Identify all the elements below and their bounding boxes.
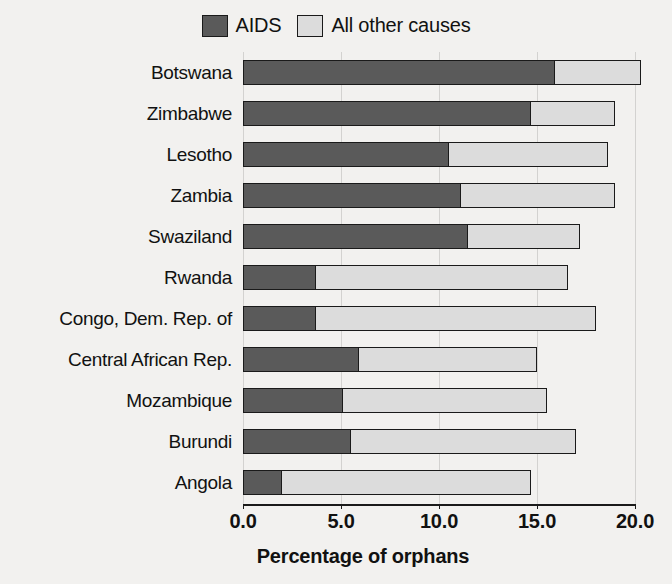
stacked-bar[interactable] <box>243 347 537 372</box>
category-label: Angola <box>0 472 232 494</box>
x-tick-label: 0.0 <box>229 510 256 533</box>
bar-segment-aids[interactable] <box>243 142 449 167</box>
x-axis-title: Percentage of orphans <box>0 545 672 568</box>
bar-segment-all-other-causes[interactable] <box>468 224 580 249</box>
legend-swatch-other-icon <box>297 15 323 37</box>
bar-segment-all-other-causes[interactable] <box>461 183 616 208</box>
bar-segment-all-other-causes[interactable] <box>449 142 608 167</box>
bar-row[interactable]: Angola <box>0 462 672 503</box>
x-tick-label: 10.0 <box>420 510 458 533</box>
bar-segment-all-other-causes[interactable] <box>351 429 576 454</box>
bar-segment-aids[interactable] <box>243 347 359 372</box>
x-tick-label: 15.0 <box>518 510 556 533</box>
category-label: Lesotho <box>0 144 232 166</box>
category-label: Zimbabwe <box>0 103 232 125</box>
stacked-bar[interactable] <box>243 429 576 454</box>
x-tick-label: 5.0 <box>327 510 354 533</box>
bar-segment-all-other-causes[interactable] <box>555 60 641 85</box>
category-label: Zambia <box>0 185 232 207</box>
x-axis-title-text: Percentage of orphans <box>257 545 470 568</box>
stacked-bar[interactable] <box>243 306 596 331</box>
category-label: Mozambique <box>0 390 232 412</box>
stacked-bar[interactable] <box>243 101 615 126</box>
category-label: Burundi <box>0 431 232 453</box>
stacked-bar[interactable] <box>243 142 608 167</box>
x-tick <box>243 504 244 509</box>
bar-segment-aids[interactable] <box>243 388 343 413</box>
bar-segment-all-other-causes[interactable] <box>316 306 596 331</box>
bar-segment-all-other-causes[interactable] <box>282 470 531 495</box>
category-label: Swaziland <box>0 226 232 248</box>
bar-row[interactable]: Zambia <box>0 175 672 216</box>
bar-segment-all-other-causes[interactable] <box>359 347 537 372</box>
stacked-bar[interactable] <box>243 224 580 249</box>
bar-segment-aids[interactable] <box>243 470 282 495</box>
plot-area: BotswanaZimbabweLesothoZambiaSwazilandRw… <box>0 52 672 504</box>
stacked-bar[interactable] <box>243 183 615 208</box>
bar-row[interactable]: Lesotho <box>0 134 672 175</box>
bar-segment-aids[interactable] <box>243 183 461 208</box>
legend-label-all-other-causes: All other causes <box>331 14 470 37</box>
x-tick-label: 20.0 <box>616 510 654 533</box>
bar-segment-aids[interactable] <box>243 60 555 85</box>
bar-segment-all-other-causes[interactable] <box>531 101 615 126</box>
legend-swatch-aids-icon <box>202 15 228 37</box>
stacked-bar[interactable] <box>243 388 547 413</box>
legend-entry-all-other-causes: All other causes <box>297 14 470 37</box>
bar-row[interactable]: Rwanda <box>0 257 672 298</box>
legend-entry-aids: AIDS <box>202 14 282 37</box>
bar-segment-aids[interactable] <box>243 265 316 290</box>
legend-label-aids: AIDS <box>236 14 282 37</box>
chart-legend: AIDS All other causes <box>0 14 672 37</box>
x-tick <box>439 504 440 509</box>
bar-segment-aids[interactable] <box>243 429 351 454</box>
stacked-bar[interactable] <box>243 470 531 495</box>
category-label: Central African Rep. <box>0 349 232 371</box>
stacked-bar[interactable] <box>243 60 641 85</box>
bar-row[interactable]: Botswana <box>0 52 672 93</box>
category-label: Rwanda <box>0 267 232 289</box>
bar-segment-aids[interactable] <box>243 224 468 249</box>
bar-segment-all-other-causes[interactable] <box>343 388 547 413</box>
bar-row[interactable]: Burundi <box>0 421 672 462</box>
bar-row[interactable]: Swaziland <box>0 216 672 257</box>
stacked-bar[interactable] <box>243 265 568 290</box>
bar-row[interactable]: Mozambique <box>0 380 672 421</box>
bar-row[interactable]: Central African Rep. <box>0 339 672 380</box>
bar-row[interactable]: Zimbabwe <box>0 93 672 134</box>
category-label: Congo, Dem. Rep. of <box>0 308 232 330</box>
chart-figure: AIDS All other causes BotswanaZimbabweLe… <box>0 0 672 584</box>
x-tick <box>341 504 342 509</box>
bar-segment-aids[interactable] <box>243 306 316 331</box>
x-tick <box>635 504 636 509</box>
category-label: Botswana <box>0 62 232 84</box>
bar-segment-aids[interactable] <box>243 101 531 126</box>
bar-segment-all-other-causes[interactable] <box>316 265 569 290</box>
bar-row[interactable]: Congo, Dem. Rep. of <box>0 298 672 339</box>
x-tick <box>537 504 538 509</box>
